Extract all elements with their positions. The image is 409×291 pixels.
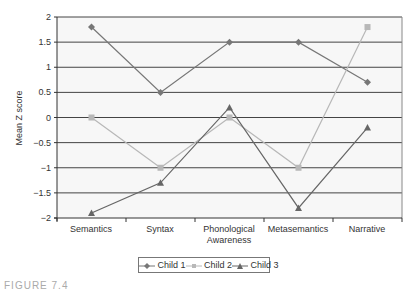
- x-label-metasemantics: Metasemantics: [268, 224, 329, 234]
- y-tick-label: −0.5: [33, 138, 51, 148]
- x-label-awareness: Awareness: [207, 235, 252, 245]
- y-tick-label: 2: [46, 12, 51, 22]
- y-tick-label: 1: [46, 62, 51, 72]
- y-tick-label: −1.5: [33, 188, 51, 198]
- y-tick-label: −2: [41, 213, 51, 223]
- y-tick-label: 1.5: [38, 37, 51, 47]
- y-tick-label: 0.5: [38, 87, 51, 97]
- y-tick-label: 0: [46, 113, 51, 123]
- x-label-phonological: Phonological: [203, 224, 255, 234]
- diamond-marker-icon: [139, 262, 155, 270]
- x-label-semantics: Semantics: [70, 224, 113, 234]
- x-label-narrative: Narrative: [349, 224, 386, 234]
- legend-child-3: Child 3: [232, 260, 279, 270]
- square-marker-icon: [186, 262, 202, 270]
- triangle-marker-icon: [232, 262, 248, 270]
- figure-caption: FIGURE 7.4: [4, 280, 68, 291]
- x-axis-ticks: [57, 218, 402, 222]
- x-label-syntax: Syntax: [146, 224, 174, 234]
- y-tick-label: −1: [41, 163, 51, 173]
- legend-child-1: Child 1: [139, 260, 186, 270]
- legend-child-2: Child 2: [186, 260, 233, 270]
- y-axis-label: Mean Z score: [14, 90, 24, 145]
- legend: Child 1 Child 2 Child 3: [138, 257, 270, 273]
- y-axis-ticks: 21.510.50−0.5−1−1.5−2: [33, 12, 57, 223]
